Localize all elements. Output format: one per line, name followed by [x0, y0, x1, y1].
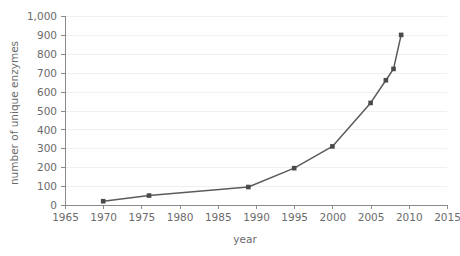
- y-tick-label: 1,000: [27, 10, 57, 22]
- y-tick-label: 700: [37, 67, 57, 79]
- x-axis: 1965197019751980198519901995200020052010…: [52, 205, 460, 223]
- x-tick-label: 1990: [243, 211, 270, 223]
- y-axis-title: number of unique enzymes: [8, 41, 20, 185]
- data-point-marker: [292, 166, 297, 171]
- x-tick-label: 2005: [358, 211, 385, 223]
- x-tick-label: 2000: [320, 211, 347, 223]
- y-tick-label: 0: [50, 199, 57, 211]
- data-point-marker: [330, 144, 335, 149]
- x-tick-label: 1995: [281, 211, 308, 223]
- x-tick-label: 2010: [396, 211, 423, 223]
- y-axis: 01002003004005006007008009001,000: [27, 10, 66, 211]
- x-tick-label: 1975: [129, 211, 156, 223]
- gridlines: [65, 17, 447, 187]
- chart-canvas: 01002003004005006007008009001,000 196519…: [0, 0, 460, 256]
- y-tick-label: 500: [37, 105, 57, 117]
- data-series: [101, 33, 404, 204]
- x-tick-label: 1980: [167, 211, 194, 223]
- y-tick-label: 100: [37, 180, 57, 192]
- data-point-marker: [391, 67, 396, 72]
- y-tick-label: 300: [37, 142, 57, 154]
- y-tick-label: 400: [37, 124, 57, 136]
- x-tick-label: 2015: [434, 211, 460, 223]
- y-tick-label: 800: [37, 48, 57, 60]
- enzyme-growth-line-chart: 01002003004005006007008009001,000 196519…: [0, 0, 460, 256]
- x-tick-label: 1985: [205, 211, 232, 223]
- x-tick-label: 1965: [52, 211, 79, 223]
- y-tick-label: 200: [37, 161, 57, 173]
- y-tick-label: 600: [37, 86, 57, 98]
- x-tick-label: 1970: [90, 211, 117, 223]
- x-axis-title: year: [233, 233, 257, 245]
- data-point-marker: [368, 101, 373, 106]
- data-point-marker: [399, 33, 404, 38]
- data-point-marker: [101, 199, 106, 204]
- data-point-marker: [384, 78, 389, 83]
- data-point-marker: [147, 193, 152, 198]
- series-line-unique-enzymes: [103, 35, 401, 201]
- data-point-marker: [246, 185, 251, 190]
- y-tick-label: 900: [37, 29, 57, 41]
